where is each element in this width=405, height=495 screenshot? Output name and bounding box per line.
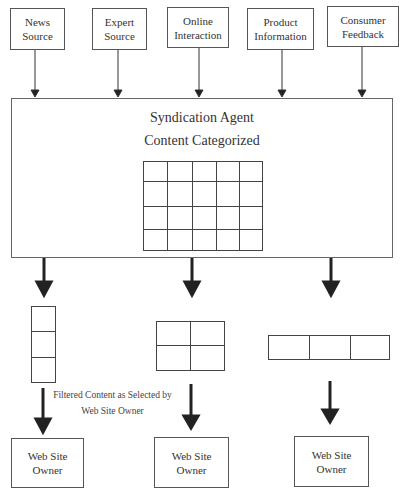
source-label-line1: News (25, 15, 50, 29)
filtered-content-caption: Filtered Content as Selected by Web Site… (50, 387, 175, 419)
source-box-news: News Source (10, 8, 65, 50)
source-box-consumer: Consumer Feedback (327, 6, 399, 47)
source-label-line1: Product (263, 15, 297, 29)
owner-label-line1: Web Site (172, 449, 212, 463)
owner-box-1: Web Site Owner (11, 438, 84, 488)
source-box-expert: Expert Source (92, 8, 147, 50)
agent-subtitle: Content Categorized (12, 133, 392, 149)
owner-label-line2: Owner (33, 463, 63, 477)
source-label-line2: Interaction (174, 28, 222, 42)
arrowhead-icon (114, 90, 122, 97)
source-label-line2: Source (22, 29, 53, 43)
caption-line2: Web Site Owner (50, 403, 175, 419)
arrowhead-icon (278, 90, 286, 97)
arrowhead-icon (358, 90, 366, 97)
owner-label-line1: Web Site (312, 448, 352, 462)
filtered-grid-square (156, 321, 225, 371)
owner-label-line1: Web Site (28, 449, 68, 463)
arrowhead-icon (31, 90, 39, 97)
source-label-line1: Online (183, 14, 213, 28)
owner-label-line2: Owner (317, 462, 347, 476)
source-label-line2: Information (254, 29, 307, 43)
owner-label-line2: Owner (177, 463, 207, 477)
filtered-grid-horizontal (268, 335, 390, 360)
source-label-line1: Consumer (340, 13, 385, 27)
source-label-line2: Source (104, 29, 135, 43)
owner-box-3: Web Site Owner (294, 436, 369, 487)
caption-line1: Filtered Content as Selected by (50, 387, 175, 403)
owner-box-2: Web Site Owner (154, 437, 229, 488)
filtered-grid-vertical (31, 306, 56, 383)
source-box-online: Online Interaction (167, 7, 229, 48)
arrowhead-icon (195, 90, 203, 97)
source-box-product: Product Information (247, 8, 314, 50)
categorized-content-grid (143, 161, 263, 251)
source-label-line2: Feedback (342, 27, 384, 41)
source-label-line1: Expert (105, 15, 134, 29)
agent-title: Syndication Agent (12, 110, 392, 126)
